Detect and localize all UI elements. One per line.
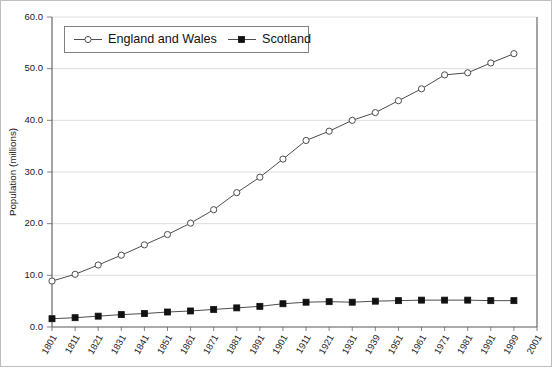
x-tick-label: 1821 <box>86 333 105 356</box>
x-tick-label: 1901 <box>271 333 290 356</box>
data-point-scotland <box>372 298 378 304</box>
x-tick-label: 1871 <box>201 333 220 356</box>
data-point-england-and-wales <box>257 174 263 180</box>
data-point-scotland <box>349 299 355 305</box>
data-point-england-and-wales <box>280 156 286 162</box>
data-point-england-and-wales <box>72 271 78 277</box>
x-tick-label: 1939 <box>363 333 382 356</box>
legend-marker-scotland <box>239 37 245 43</box>
x-tick-label: 1921 <box>317 333 336 356</box>
x-tick-label: 1951 <box>386 333 405 356</box>
y-tick-label: 20.0 <box>25 217 44 228</box>
data-point-scotland <box>164 309 170 315</box>
data-point-england-and-wales <box>187 220 193 226</box>
data-point-scotland <box>95 313 101 319</box>
data-series-group <box>49 51 517 322</box>
y-tick-label: 40.0 <box>25 114 44 125</box>
x-tick-label: 1931 <box>340 333 359 356</box>
data-point-scotland <box>280 301 286 307</box>
y-axis-ticks: 0.010.020.030.040.050.060.0 <box>25 11 53 332</box>
chart-legend: England and Wales Scotland <box>65 27 312 53</box>
figure-border <box>1 1 552 367</box>
data-point-england-and-wales <box>234 190 240 196</box>
data-point-england-and-wales <box>164 231 170 237</box>
data-point-scotland <box>211 306 217 312</box>
data-point-scotland <box>72 315 78 321</box>
x-tick-label: 1971 <box>432 333 451 356</box>
data-point-scotland <box>488 298 494 304</box>
x-axis-ticks: 1801181118211831184118511861187118811891… <box>40 327 544 356</box>
x-tick-label: 1981 <box>455 333 474 356</box>
x-tick-label: 1861 <box>178 333 197 356</box>
data-point-scotland <box>465 297 471 303</box>
data-point-england-and-wales <box>95 262 101 268</box>
y-axis-title: Population (millions) <box>7 128 18 216</box>
data-point-scotland <box>395 298 401 304</box>
data-point-england-and-wales <box>372 109 378 115</box>
data-point-scotland <box>234 305 240 311</box>
x-tick-label: 1999 <box>502 333 521 356</box>
data-point-england-and-wales <box>118 252 124 258</box>
y-tick-label: 10.0 <box>25 269 44 280</box>
data-point-england-and-wales <box>418 86 424 92</box>
data-point-scotland <box>49 316 55 322</box>
x-tick-label: 1911 <box>294 333 313 355</box>
x-tick-label: 1811 <box>63 333 82 355</box>
data-point-england-and-wales <box>349 117 355 123</box>
x-tick-label: 1831 <box>109 333 128 356</box>
data-point-england-and-wales <box>465 70 471 76</box>
y-tick-label: 0.0 <box>30 321 43 332</box>
data-point-england-and-wales <box>488 60 494 66</box>
legend-label-england-and-wales: England and Wales <box>108 32 217 46</box>
gridlines <box>52 17 537 275</box>
data-point-scotland <box>419 297 425 303</box>
x-tick-label: 1991 <box>479 333 498 356</box>
x-tick-label: 2001 <box>525 333 544 356</box>
data-point-england-and-wales <box>303 137 309 143</box>
data-point-england-and-wales <box>511 51 517 57</box>
data-point-scotland <box>188 308 194 314</box>
data-point-england-and-wales <box>442 72 448 78</box>
data-point-scotland <box>442 297 448 303</box>
population-line-chart: 0.010.020.030.040.050.060.0 180118111821… <box>0 0 552 367</box>
x-tick-label: 1801 <box>40 333 59 356</box>
data-point-scotland <box>511 298 517 304</box>
x-tick-label: 1881 <box>224 333 243 356</box>
x-tick-label: 1961 <box>409 333 428 356</box>
data-point-scotland <box>303 299 309 305</box>
data-point-england-and-wales <box>211 207 217 213</box>
legend-label-scotland: Scotland <box>262 32 311 46</box>
x-tick-label: 1841 <box>132 333 151 356</box>
chart-figure: 0.010.020.030.040.050.060.0 180118111821… <box>0 0 552 367</box>
data-point-england-and-wales <box>326 128 332 134</box>
x-tick-label: 1891 <box>248 333 267 356</box>
series-line-england-and-wales <box>52 54 514 281</box>
data-point-scotland <box>141 311 147 317</box>
legend-marker-england-and-wales <box>85 36 91 42</box>
data-point-scotland <box>326 299 332 305</box>
x-tick-label: 1851 <box>155 333 174 356</box>
y-tick-label: 60.0 <box>25 11 44 22</box>
y-tick-label: 30.0 <box>25 166 44 177</box>
data-point-england-and-wales <box>141 242 147 248</box>
data-point-england-and-wales <box>49 278 55 284</box>
data-point-scotland <box>257 303 263 309</box>
y-tick-label: 50.0 <box>25 62 44 73</box>
data-point-scotland <box>118 312 124 318</box>
data-point-england-and-wales <box>395 98 401 104</box>
